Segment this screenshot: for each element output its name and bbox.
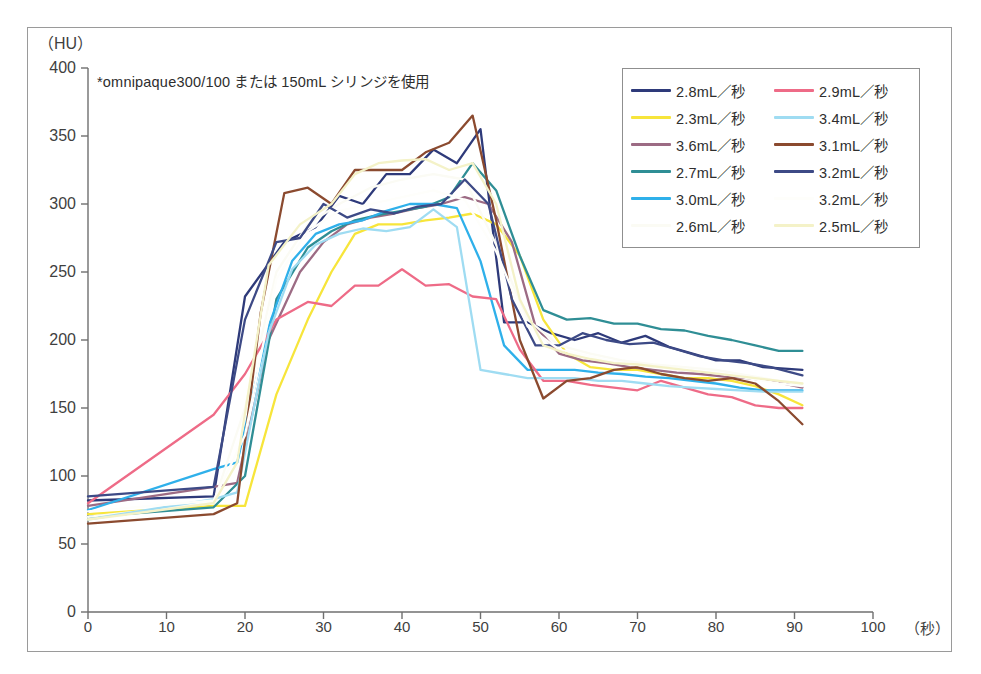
legend-item[interactable]: 3.2mL／秒 bbox=[774, 188, 913, 209]
legend-item-label: 3.1mL／秒 bbox=[819, 134, 889, 155]
legend-item[interactable]: 3.1mL／秒 bbox=[774, 134, 913, 155]
legend-color-swatch bbox=[631, 170, 671, 173]
legend-item[interactable]: 2.9mL／秒 bbox=[774, 80, 913, 101]
legend-item[interactable]: 3.4mL／秒 bbox=[774, 107, 913, 128]
legend-item-label: 2.6mL／秒 bbox=[676, 215, 746, 236]
legend-item-label: 3.2mL／秒 bbox=[819, 188, 889, 209]
legend-color-swatch bbox=[631, 143, 671, 146]
legend-item[interactable]: 3.2mL／秒 bbox=[774, 161, 913, 182]
legend-item-label: 2.7mL／秒 bbox=[676, 161, 746, 182]
legend-color-swatch bbox=[631, 89, 671, 92]
legend-color-swatch bbox=[774, 197, 814, 200]
legend-color-swatch bbox=[774, 116, 814, 119]
legend-color-swatch bbox=[774, 143, 814, 146]
legend-item-label: 2.5mL／秒 bbox=[819, 215, 889, 236]
legend-color-swatch bbox=[774, 170, 814, 173]
legend-color-swatch bbox=[631, 197, 671, 200]
legend-grid: 2.8mL／秒2.9mL／秒2.3mL／秒3.4mL／秒3.6mL／秒3.1mL… bbox=[631, 77, 913, 239]
legend-color-swatch bbox=[631, 224, 671, 227]
legend-item-label: 3.4mL／秒 bbox=[819, 107, 889, 128]
figure-container: （HU） （秒） *omnipaque300/100 または 150mL シリン… bbox=[0, 0, 981, 674]
legend-item[interactable]: 2.5mL／秒 bbox=[774, 215, 913, 236]
series-line-6 bbox=[88, 269, 802, 503]
legend-item[interactable]: 2.7mL／秒 bbox=[631, 161, 770, 182]
legend-item[interactable]: 3.6mL／秒 bbox=[631, 134, 770, 155]
legend-item-label: 3.0mL／秒 bbox=[676, 188, 746, 209]
legend-item[interactable]: 2.3mL／秒 bbox=[631, 107, 770, 128]
legend-color-swatch bbox=[774, 89, 814, 92]
legend-item-label: 2.3mL／秒 bbox=[676, 107, 746, 128]
legend-box: 2.8mL／秒2.9mL／秒2.3mL／秒3.4mL／秒3.6mL／秒3.1mL… bbox=[622, 68, 920, 248]
legend-item[interactable]: 3.0mL／秒 bbox=[631, 188, 770, 209]
legend-item-label: 3.6mL／秒 bbox=[676, 134, 746, 155]
series-line-7 bbox=[88, 209, 802, 519]
legend-item-label: 3.2mL／秒 bbox=[819, 161, 889, 182]
legend-color-swatch bbox=[774, 224, 814, 227]
legend-item[interactable]: 2.8mL／秒 bbox=[631, 80, 770, 101]
legend-item[interactable]: 2.6mL／秒 bbox=[631, 215, 770, 236]
legend-color-swatch bbox=[631, 116, 671, 119]
series-line-1 bbox=[88, 214, 802, 515]
series-line-4 bbox=[88, 204, 802, 510]
legend-item-label: 2.9mL／秒 bbox=[819, 80, 889, 101]
legend-item-label: 2.8mL／秒 bbox=[676, 80, 746, 101]
